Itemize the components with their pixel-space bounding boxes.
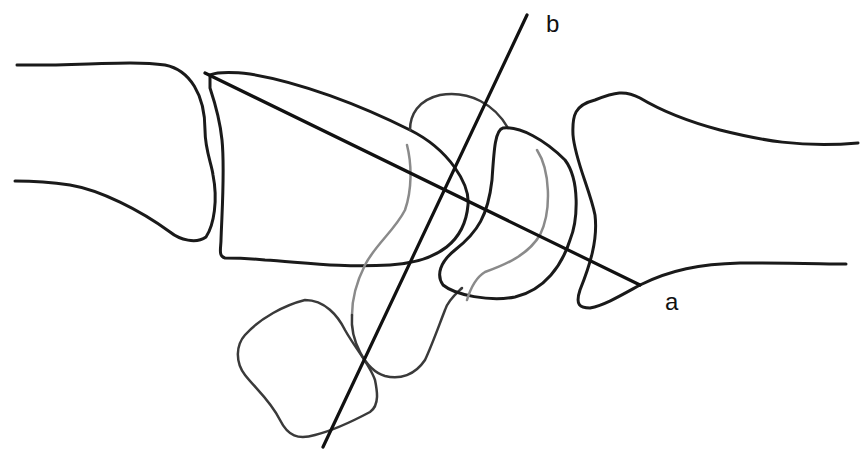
middle-bone-outline bbox=[210, 73, 468, 266]
bone-diagram bbox=[0, 0, 866, 457]
axis-b-label: b bbox=[546, 12, 559, 36]
axis-b-line bbox=[323, 15, 527, 447]
axis-a-label: a bbox=[665, 290, 678, 314]
central-bone-lower-outline bbox=[352, 288, 462, 377]
left-bone-outline bbox=[15, 63, 215, 241]
central-bone-outline bbox=[410, 94, 508, 130]
right-bone-outline bbox=[573, 93, 858, 308]
lower-bone-outline bbox=[238, 300, 377, 437]
